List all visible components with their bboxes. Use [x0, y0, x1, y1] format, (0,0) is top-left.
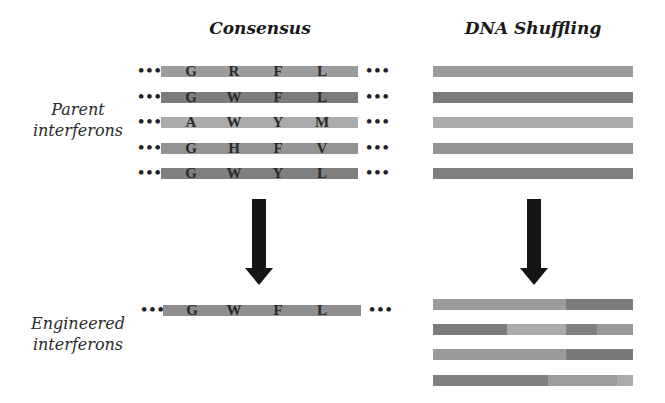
- residue: L: [317, 62, 327, 80]
- residue: R: [229, 62, 240, 80]
- residue: G: [186, 301, 198, 319]
- arrow-shaft: [252, 199, 266, 269]
- shuffled-chimera-bar: [433, 324, 633, 335]
- shuffling-parent-bar: [433, 168, 633, 179]
- left-ellipsis: •••: [137, 116, 162, 127]
- shuffled-chimera-bar: [433, 375, 633, 386]
- consensus-parent-row: ••• G R F L •••: [0, 66, 400, 77]
- arrow-head-icon: [520, 268, 548, 285]
- left-ellipsis: •••: [137, 142, 162, 153]
- residue: G: [185, 139, 197, 157]
- residue: M: [315, 113, 329, 131]
- arrow-head-icon: [245, 268, 273, 285]
- shuffled-chimera-bar: [433, 299, 633, 310]
- segment: [566, 299, 633, 310]
- shuffling-parent-bar: [433, 92, 633, 103]
- residue: Y: [273, 164, 284, 182]
- sequence-bar: G W F L: [161, 92, 358, 103]
- segment: [507, 324, 566, 335]
- engineered-label-line2: interferons: [18, 334, 138, 355]
- sequence-bar: G W Y L: [161, 168, 358, 179]
- residue: G: [185, 62, 197, 80]
- engineered-label-line1: Engineered: [18, 313, 138, 334]
- sequence-bar: G R F L: [161, 66, 358, 77]
- residue: L: [317, 88, 327, 106]
- segment: [548, 375, 617, 386]
- residue: F: [273, 301, 282, 319]
- left-ellipsis: •••: [137, 91, 162, 102]
- residue: L: [317, 301, 327, 319]
- consensus-parent-row: ••• G W F L •••: [0, 92, 400, 103]
- segment: [433, 324, 507, 335]
- left-ellipsis: •••: [140, 304, 165, 315]
- consensus-parent-row: ••• G W Y L •••: [0, 168, 400, 179]
- right-ellipsis: •••: [365, 167, 390, 178]
- segment: [433, 349, 566, 360]
- segment: [617, 375, 633, 386]
- arrow-shaft: [527, 199, 541, 269]
- residue: G: [185, 88, 197, 106]
- right-ellipsis: •••: [365, 116, 390, 127]
- residue: F: [273, 62, 282, 80]
- consensus-engineered-row: ••• G W F L •••: [0, 305, 400, 316]
- residue: W: [227, 301, 242, 319]
- consensus-parent-row: ••• A W Y M •••: [0, 117, 400, 128]
- residue: H: [228, 139, 240, 157]
- shuffled-chimera-bar: [433, 349, 633, 360]
- residue: F: [273, 88, 282, 106]
- residue: W: [227, 164, 242, 182]
- segment: [597, 324, 633, 335]
- consensus-heading: Consensus: [200, 18, 320, 38]
- right-ellipsis: •••: [365, 91, 390, 102]
- residue: F: [273, 139, 282, 157]
- segment: [433, 299, 566, 310]
- left-ellipsis: •••: [137, 65, 162, 76]
- right-ellipsis: •••: [368, 304, 393, 315]
- consensus-parent-row: ••• G H F V •••: [0, 143, 400, 154]
- residue: V: [317, 139, 328, 157]
- right-ellipsis: •••: [365, 142, 390, 153]
- shuffling-parent-bar: [433, 117, 633, 128]
- sequence-bar: G W F L: [163, 305, 361, 316]
- engineered-interferons-label: Engineered interferons: [18, 313, 138, 355]
- segment: [566, 324, 597, 335]
- segment: [433, 375, 548, 386]
- residue: L: [317, 164, 327, 182]
- segment: [566, 349, 633, 360]
- residue: Y: [273, 113, 284, 131]
- residue: G: [185, 164, 197, 182]
- sequence-bar: A W Y M: [161, 117, 358, 128]
- residue: A: [186, 113, 197, 131]
- right-ellipsis: •••: [365, 65, 390, 76]
- residue: W: [227, 88, 242, 106]
- shuffling-parent-bar: [433, 143, 633, 154]
- sequence-bar: G H F V: [161, 143, 358, 154]
- dna-shuffling-heading: DNA Shuffling: [463, 18, 603, 38]
- shuffling-parent-bar: [433, 66, 633, 77]
- residue: W: [227, 113, 242, 131]
- left-ellipsis: •••: [137, 167, 162, 178]
